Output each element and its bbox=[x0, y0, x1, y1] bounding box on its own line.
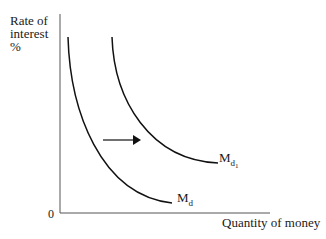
origin-label: 0 bbox=[48, 207, 54, 222]
curve-label-md1: Md1 bbox=[219, 150, 239, 166]
curve-label-md: Md bbox=[177, 190, 193, 206]
curve-md1 bbox=[112, 37, 218, 163]
chart-plot bbox=[0, 0, 326, 239]
shift-arrow-icon bbox=[103, 135, 141, 145]
x-axis-label: Quantity of money bbox=[222, 215, 320, 231]
curve-md bbox=[68, 37, 172, 203]
